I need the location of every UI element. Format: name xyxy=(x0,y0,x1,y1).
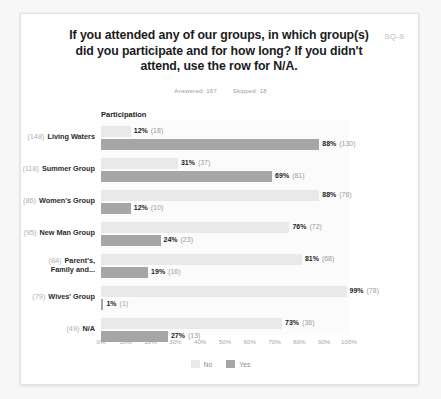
bar-line-no: 31%(37) xyxy=(101,158,349,169)
bar-line-no: 12%(18) xyxy=(101,126,349,137)
row-label: (148)Living Waters xyxy=(21,133,95,142)
bar-line-yes: 19%(16) xyxy=(101,267,349,278)
row-label: (95)New Man Group xyxy=(21,229,95,238)
chart-row: (84)Parent's,Family and...81%(68)19%(16) xyxy=(21,252,419,284)
row-bars: 88%(76)12%(10) xyxy=(101,190,349,216)
chart-row: (148)Living Waters12%(18)88%(130) xyxy=(21,124,419,156)
chart-rows: (148)Living Waters12%(18)88%(130)(118)Su… xyxy=(21,124,419,348)
bar-no[interactable] xyxy=(101,126,131,137)
bar-no[interactable] xyxy=(101,318,282,329)
participation-header: Participation xyxy=(101,110,146,119)
response-summary: Answered: 167 Skipped: 18 xyxy=(21,88,419,94)
row-label: (49)N/A xyxy=(21,325,95,334)
axis-tick-label: 40% xyxy=(194,338,206,345)
page-background: SQ-9 If you attended any of our groups, … xyxy=(0,0,441,399)
bar-yes[interactable] xyxy=(101,203,131,214)
axis-tick-label: 50% xyxy=(219,338,231,345)
legend-item-no[interactable]: No xyxy=(191,360,213,368)
legend-label: No xyxy=(204,361,213,368)
bar-no[interactable] xyxy=(101,222,289,233)
bar-no[interactable] xyxy=(101,254,302,265)
answered-count: Answered: 167 xyxy=(174,88,217,94)
chart-row: (95)New Man Group76%(72)24%(23) xyxy=(21,220,419,252)
axis-tick-label: 100% xyxy=(341,338,357,345)
bar-line-yes: 69%(81) xyxy=(101,171,349,182)
bar-value-label: 31%(37) xyxy=(181,159,210,166)
axis-tick-label: 20% xyxy=(144,338,156,345)
bar-value-label: 69%(81) xyxy=(275,172,304,179)
legend-item-yes[interactable]: Yes xyxy=(226,360,250,368)
bar-value-label: 1%(1) xyxy=(106,300,128,307)
axis-tick-label: 30% xyxy=(169,338,181,345)
bar-no[interactable] xyxy=(101,158,178,169)
bar-yes[interactable] xyxy=(101,139,319,150)
bar-value-label: 99%(78) xyxy=(350,287,379,294)
axis-tick-label: 0% xyxy=(97,338,106,345)
page-title: If you attended any of our groups, in wh… xyxy=(69,28,369,75)
chart-row: (79)Wives' Group99%(78)1%(1) xyxy=(21,284,419,316)
bar-line-yes: 88%(130) xyxy=(101,139,349,150)
bar-value-label: 12%(18) xyxy=(134,127,163,134)
bar-value-label: 76%(72) xyxy=(292,223,321,230)
bar-value-label: 73%(36) xyxy=(285,319,314,326)
bar-line-no: 88%(76) xyxy=(101,190,349,201)
legend-label: Yes xyxy=(239,361,250,368)
bar-value-label: 88%(130) xyxy=(322,140,355,147)
chart-legend: NoYes xyxy=(21,360,419,368)
bar-value-label: 19%(16) xyxy=(151,268,180,275)
x-axis: 0%10%20%30%40%50%60%70%80%90%100% xyxy=(101,338,349,350)
bar-yes[interactable] xyxy=(101,171,272,182)
bar-line-no: 99%(78) xyxy=(101,286,349,297)
axis-tick-label: 10% xyxy=(120,338,132,345)
legend-swatch-no xyxy=(191,360,200,368)
axis-tick-label: 70% xyxy=(268,338,280,345)
bar-line-yes: 24%(23) xyxy=(101,235,349,246)
bar-value-label: 88%(76) xyxy=(322,191,351,198)
bar-line-yes: 1%(1) xyxy=(101,299,349,310)
bar-no[interactable] xyxy=(101,286,347,297)
row-bars: 81%(68)19%(16) xyxy=(101,254,349,280)
skipped-count: Skipped: 18 xyxy=(233,88,267,94)
bar-yes[interactable] xyxy=(101,267,148,278)
bar-line-yes: 12%(10) xyxy=(101,203,349,214)
row-label: (84)Parent's,Family and... xyxy=(21,257,95,274)
axis-tick-label: 90% xyxy=(318,338,330,345)
chart-row: (86)Women's Group88%(76)12%(10) xyxy=(21,188,419,220)
row-label: (86)Women's Group xyxy=(21,197,95,206)
row-label: (118)Summer Group xyxy=(21,165,95,174)
bar-value-label: 81%(68) xyxy=(305,255,334,262)
row-bars: 12%(18)88%(130) xyxy=(101,126,349,152)
question-tag: SQ-9 xyxy=(384,32,404,41)
axis-tick-label: 60% xyxy=(244,338,256,345)
bar-line-no: 81%(68) xyxy=(101,254,349,265)
bar-value-label: 24%(23) xyxy=(164,236,193,243)
bar-no[interactable] xyxy=(101,190,319,201)
axis-tick-label: 80% xyxy=(293,338,305,345)
row-bars: 31%(37)69%(81) xyxy=(101,158,349,184)
bar-value-label: 12%(10) xyxy=(134,204,163,211)
bar-yes[interactable] xyxy=(101,235,161,246)
row-bars: 76%(72)24%(23) xyxy=(101,222,349,248)
row-bars: 99%(78)1%(1) xyxy=(101,286,349,312)
legend-swatch-yes xyxy=(226,360,235,368)
bar-line-no: 76%(72) xyxy=(101,222,349,233)
row-label: (79)Wives' Group xyxy=(21,293,95,302)
chart-row: (118)Summer Group31%(37)69%(81) xyxy=(21,156,419,188)
bar-line-no: 73%(36) xyxy=(101,318,349,329)
bar-yes[interactable] xyxy=(101,299,103,310)
survey-result-card: SQ-9 If you attended any of our groups, … xyxy=(20,13,419,385)
